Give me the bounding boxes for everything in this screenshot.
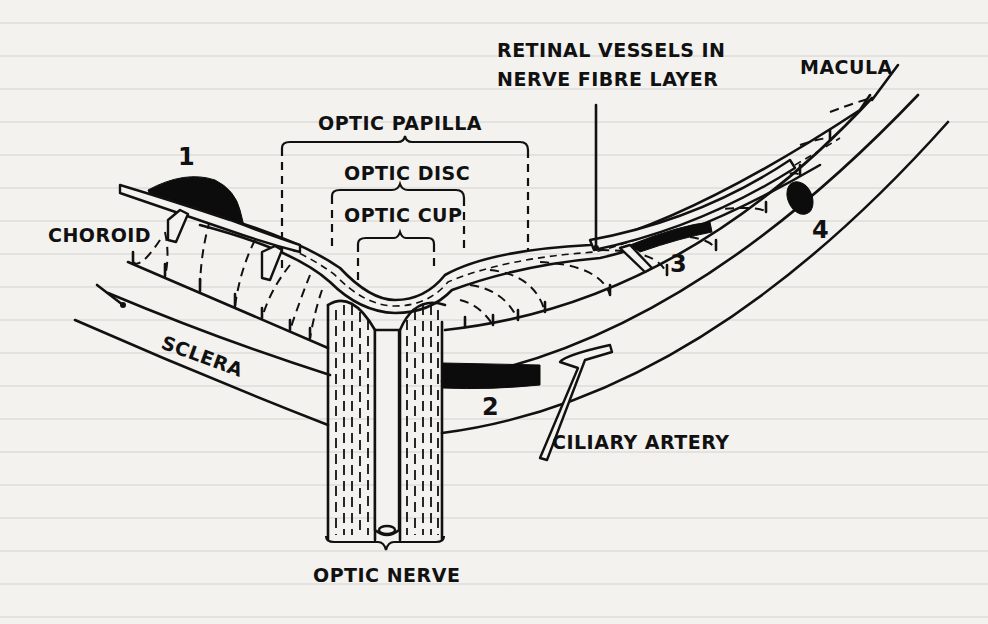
marker-2-blob xyxy=(443,363,540,389)
marker-3-number: 3 xyxy=(670,250,687,278)
marker-1-number: 1 xyxy=(178,143,195,171)
brace-optic-nerve xyxy=(326,536,444,550)
label-optic-cup: OPTIC CUP xyxy=(344,204,462,226)
label-retinal-vessels-line1: RETINAL VESSELS IN xyxy=(497,39,726,61)
brace-optic-cup xyxy=(358,232,434,282)
optic-nerve-diagram: RETINAL VESSELS IN NERVE FIBRE LAYER MAC… xyxy=(0,0,988,624)
label-optic-disc: OPTIC DISC xyxy=(344,162,470,184)
label-optic-nerve: OPTIC NERVE xyxy=(313,564,460,586)
diagram-page: RETINAL VESSELS IN NERVE FIBRE LAYER MAC… xyxy=(0,0,988,624)
label-optic-papilla: OPTIC PAPILLA xyxy=(318,112,482,134)
optic-nerve-trunk xyxy=(328,301,445,540)
label-choroid: CHOROID xyxy=(48,224,151,246)
marker-4-number: 4 xyxy=(812,216,829,244)
nerve-fibre-layer xyxy=(200,95,870,313)
brace-optic-papilla xyxy=(282,136,528,268)
marker-2-number: 2 xyxy=(482,393,499,421)
retina-dashed-arcs xyxy=(133,98,872,338)
label-retinal-vessels-line2: NERVE FIBRE LAYER xyxy=(497,68,718,90)
label-ciliary-artery: CILIARY ARTERY xyxy=(552,431,730,453)
label-macula: MACULA xyxy=(800,56,893,78)
